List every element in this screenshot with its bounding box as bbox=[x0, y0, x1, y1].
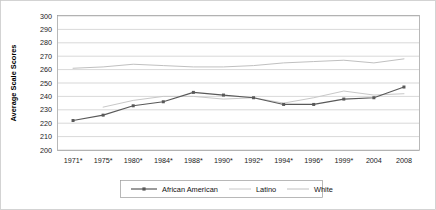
y-tick-label: 210 bbox=[40, 132, 52, 141]
x-tick-label: 1999* bbox=[334, 156, 353, 165]
x-tick-label: 1990* bbox=[214, 156, 233, 165]
data-point-marker bbox=[372, 96, 375, 99]
figure-background bbox=[1, 1, 436, 210]
data-point-marker bbox=[402, 86, 405, 89]
y-tick-label: 290 bbox=[40, 25, 52, 34]
y-tick-label: 240 bbox=[40, 92, 52, 101]
x-tick-label: 1975* bbox=[94, 156, 113, 165]
x-tick-label: 1984* bbox=[154, 156, 173, 165]
x-tick-label: 1996* bbox=[304, 156, 323, 165]
data-point-marker bbox=[342, 98, 345, 101]
x-tick-label: 1988* bbox=[184, 156, 203, 165]
x-tick-label: 2004 bbox=[366, 156, 382, 165]
data-point-marker bbox=[192, 91, 195, 94]
y-axis-title: Average Scale Scores bbox=[9, 45, 18, 122]
legend-label: Latino bbox=[256, 185, 276, 194]
legend-marker bbox=[142, 187, 145, 190]
data-point-marker bbox=[312, 103, 315, 106]
y-tick-label: 220 bbox=[40, 119, 52, 128]
data-point-marker bbox=[252, 96, 255, 99]
data-point-marker bbox=[222, 94, 225, 97]
data-point-marker bbox=[132, 104, 135, 107]
y-axis-tick-labels: 300290280270260250240230220210200 bbox=[40, 12, 52, 155]
y-tick-label: 280 bbox=[40, 38, 52, 47]
x-tick-label: 1971* bbox=[64, 156, 83, 165]
y-tick-label: 260 bbox=[40, 65, 52, 74]
y-tick-label: 270 bbox=[40, 52, 52, 61]
y-tick-label: 230 bbox=[40, 105, 52, 114]
data-point-marker bbox=[282, 103, 285, 106]
data-point-marker bbox=[72, 119, 75, 122]
y-tick-label: 250 bbox=[40, 79, 52, 88]
chart-canvas: 300290280270260250240230220210200 1971*1… bbox=[0, 0, 436, 210]
x-tick-label: 1992* bbox=[244, 156, 263, 165]
data-point-marker bbox=[162, 100, 165, 103]
y-tick-label: 200 bbox=[40, 146, 52, 155]
legend-label: White bbox=[314, 185, 333, 194]
legend-label: African American bbox=[162, 185, 218, 194]
x-tick-label: 2008 bbox=[396, 156, 412, 165]
x-tick-label: 1994* bbox=[274, 156, 293, 165]
y-tick-label: 300 bbox=[40, 12, 52, 21]
line-chart-figure: 300290280270260250240230220210200 1971*1… bbox=[0, 0, 436, 210]
data-point-marker bbox=[102, 114, 105, 117]
x-tick-label: 1980* bbox=[124, 156, 143, 165]
